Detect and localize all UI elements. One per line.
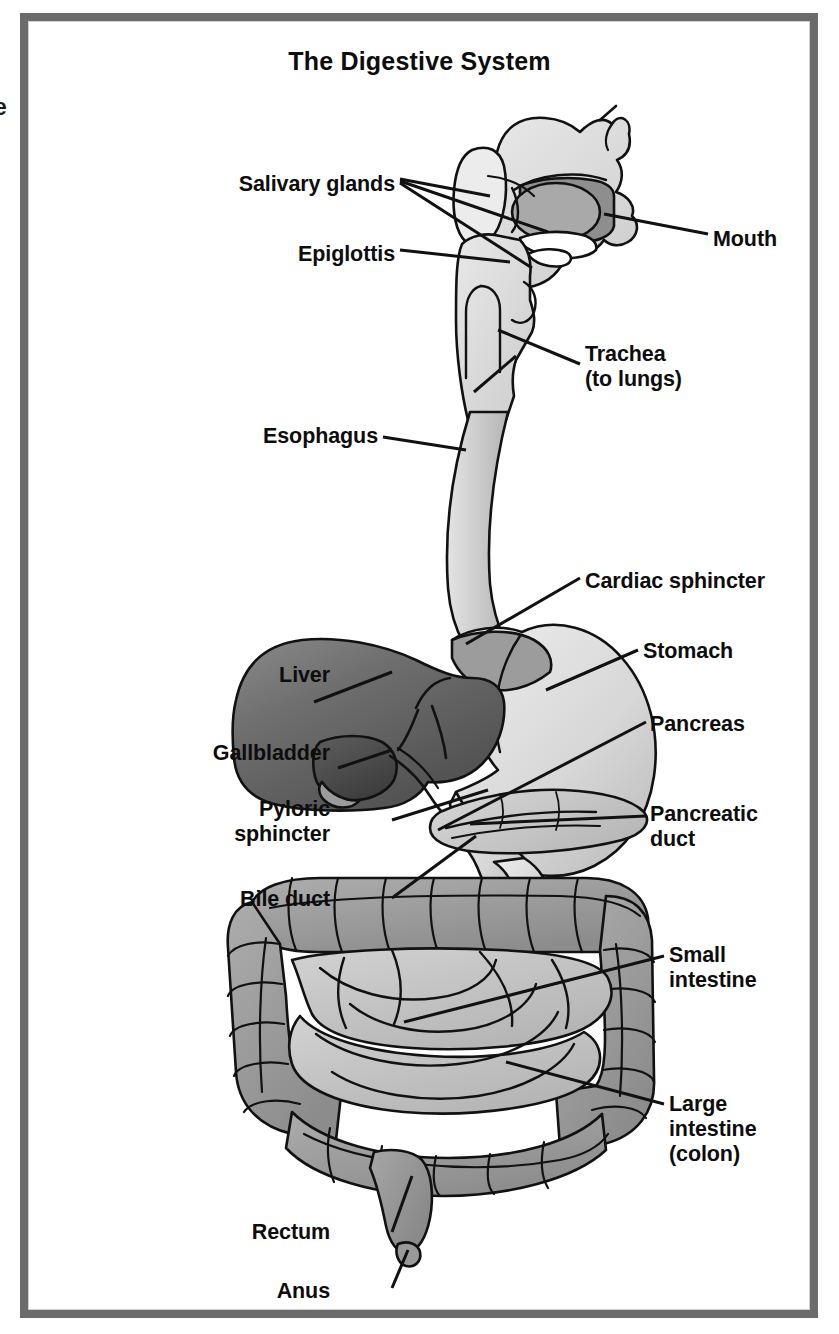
label-cardiac-sphincter: Cardiac sphincter [585, 569, 820, 594]
label-pancreatic-duct: Pancreatic duct [650, 802, 825, 852]
label-pancreas: Pancreas [650, 712, 825, 737]
label-small-intestine: Small intestine [669, 943, 829, 993]
label-epiglottis: Epiglottis [150, 242, 395, 267]
label-pyloric-sphincter: Pyloric sphincter [100, 797, 330, 847]
organ-small-intestine [289, 948, 611, 1113]
label-esophagus: Esophagus [150, 424, 378, 449]
label-mouth: Mouth [713, 227, 833, 252]
label-large-intestine: Large intestine (colon) [669, 1092, 829, 1167]
label-gallbladder: Gallbladder [90, 741, 330, 766]
figure-page: e The Digestive System [0, 0, 839, 1334]
label-salivary-glands: Salivary glands [150, 172, 395, 197]
label-bile-duct: Bile duct [120, 887, 330, 912]
organ-anus [396, 1242, 420, 1266]
label-trachea: Trachea (to lungs) [585, 342, 750, 392]
label-rectum: Rectum [150, 1220, 330, 1245]
label-anus: Anus [180, 1279, 330, 1304]
label-liver: Liver [120, 663, 330, 688]
label-stomach: Stomach [643, 639, 823, 664]
organ-esophagus [447, 412, 508, 644]
